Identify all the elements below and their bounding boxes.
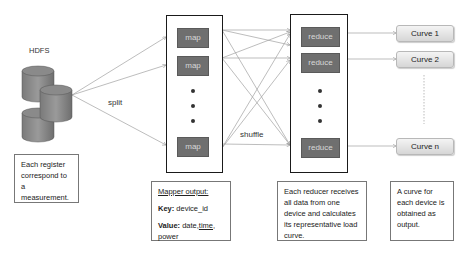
- curve-output: Curve n: [396, 138, 454, 155]
- key-value: device_id: [174, 204, 208, 213]
- ellipsis-dot: [191, 119, 195, 123]
- ellipsis-dot: [318, 119, 322, 123]
- reducer-note: Each reducer receives all data from one …: [277, 181, 367, 241]
- ellipsis-dot: [191, 89, 195, 93]
- curve-output: Curve 2: [396, 51, 454, 68]
- curve-output: Curve 1: [396, 25, 454, 42]
- reduce-task: reduce: [301, 138, 340, 158]
- key-label: Key:: [158, 204, 174, 213]
- ellipsis-dot: [318, 89, 322, 93]
- reduce-task: reduce: [301, 53, 340, 73]
- map-phase-container: map map map: [166, 15, 223, 173]
- mapper-value-line: Value: date,time, power: [158, 220, 224, 242]
- mapper-key-line: Key: device_id: [158, 203, 224, 214]
- hdfs-note: Each register correspond to a measuremen…: [14, 154, 79, 203]
- value-text: time: [199, 221, 213, 230]
- ellipsis-dot: [191, 104, 195, 108]
- ellipsis-dot: [318, 104, 322, 108]
- database-icon: [19, 65, 75, 145]
- value-text: date,: [180, 221, 199, 230]
- output-note: A curve for each device is obtained as o…: [390, 181, 454, 241]
- mapper-note-title: Mapper output:: [158, 186, 224, 197]
- split-label: split: [108, 98, 122, 107]
- map-task: map: [177, 56, 209, 76]
- map-task: map: [177, 28, 209, 48]
- shuffle-label: shuffle: [240, 130, 263, 139]
- value-label: Value:: [158, 221, 180, 230]
- mapper-output-note: Mapper output: Key: device_id Value: dat…: [151, 181, 231, 241]
- reduce-task: reduce: [301, 27, 340, 47]
- hdfs-label: HDFS: [29, 46, 49, 55]
- reduce-phase-container: reduce reduce reduce: [290, 14, 348, 173]
- map-task: map: [177, 137, 209, 157]
